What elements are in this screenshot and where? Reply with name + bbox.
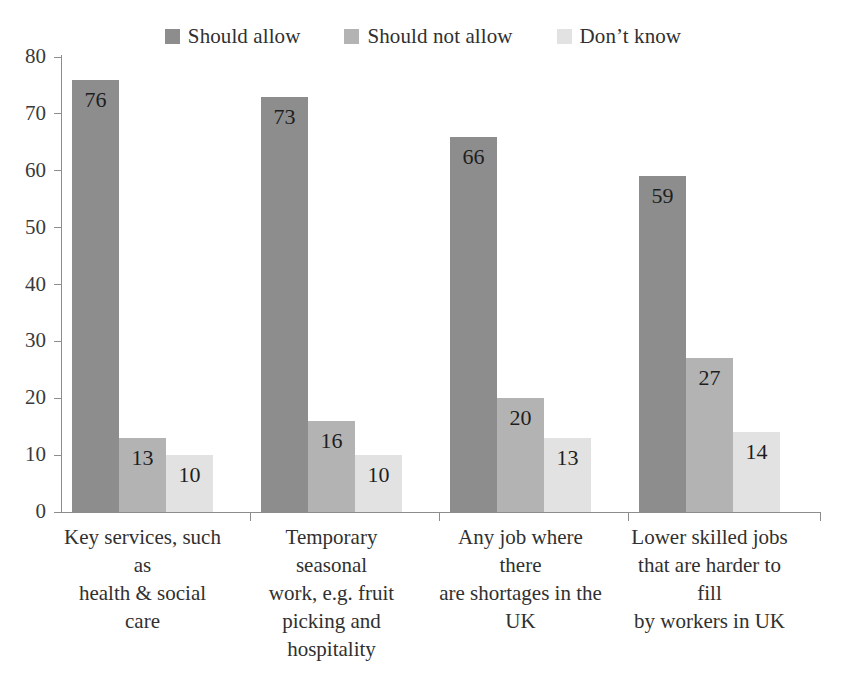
bar[interactable]: 14 (733, 432, 780, 512)
y-axis-tick-label: 20 (0, 387, 46, 408)
category-label: Any job where thereare shortages in theU… (437, 523, 604, 635)
bar-group: 761310 (72, 57, 213, 512)
y-axis-tick-label: 70 (0, 103, 46, 124)
category-separator-tick (439, 512, 440, 521)
plot-area: 761310731610662013592714 (62, 57, 820, 512)
y-axis-tick (54, 170, 62, 171)
bar-group-bars: 761310 (72, 57, 213, 512)
category-label-line: that are harder to fill (626, 551, 793, 607)
y-axis-tick (54, 341, 62, 342)
bar[interactable]: 76 (72, 80, 119, 512)
y-axis-tick (54, 398, 62, 399)
y-axis-tick-label: 80 (0, 46, 46, 67)
category-label-line: Any job where there (437, 523, 604, 579)
y-axis-tick (54, 455, 62, 456)
bar-group: 731610 (261, 57, 402, 512)
category-label-line: picking and (248, 607, 415, 635)
bar-group-bars: 731610 (261, 57, 402, 512)
bar[interactable]: 73 (261, 97, 308, 512)
bar[interactable]: 13 (544, 438, 591, 512)
category-label-line: health & social care (59, 579, 226, 635)
bar-value-label: 10 (368, 464, 390, 486)
bar[interactable]: 27 (686, 358, 733, 512)
bar-value-label: 16 (321, 430, 343, 452)
y-axis-tick (54, 512, 62, 513)
x-axis-end-tick (820, 512, 821, 521)
bar-value-label: 14 (746, 441, 768, 463)
bar-value-label: 59 (652, 185, 674, 207)
bar-chart: 80706050403020100 7613107316106620135927… (0, 0, 846, 686)
bar[interactable]: 20 (497, 398, 544, 512)
category-separator-tick (628, 512, 629, 521)
category-label-line: Temporary seasonal (248, 523, 415, 579)
y-axis-tick-label: 10 (0, 444, 46, 465)
bar-group-bars: 592714 (639, 57, 780, 512)
category-label: Key services, such ashealth & social car… (59, 523, 226, 635)
bar-group: 662013 (450, 57, 591, 512)
bar[interactable]: 66 (450, 137, 497, 512)
y-axis-tick (54, 113, 62, 114)
y-axis-tick (54, 227, 62, 228)
y-axis-tick-label: 40 (0, 274, 46, 295)
category-label-line: are shortages in the (437, 579, 604, 607)
category-label-line: Key services, such as (59, 523, 226, 579)
bar[interactable]: 10 (166, 455, 213, 512)
bar[interactable]: 10 (355, 455, 402, 512)
bar[interactable]: 13 (119, 438, 166, 512)
category-label-line: UK (437, 607, 604, 635)
y-axis-tick-label: 0 (0, 501, 46, 522)
bar-value-label: 27 (699, 367, 721, 389)
bar[interactable]: 16 (308, 421, 355, 512)
category-label-line: work, e.g. fruit (248, 579, 415, 607)
category-label: Lower skilled jobsthat are harder to fil… (626, 523, 793, 635)
category-label-line: hospitality (248, 635, 415, 663)
category-label: Temporary seasonalwork, e.g. fruitpickin… (248, 523, 415, 663)
bar-group-bars: 662013 (450, 57, 591, 512)
bar-value-label: 73 (274, 106, 296, 128)
y-axis-tick-label: 30 (0, 330, 46, 351)
bar-value-label: 20 (510, 407, 532, 429)
category-label-line: by workers in UK (626, 607, 793, 635)
y-axis-tick (54, 57, 62, 58)
category-label-line: Lower skilled jobs (626, 523, 793, 551)
y-axis-tick-label: 60 (0, 160, 46, 181)
bar-value-label: 10 (179, 464, 201, 486)
bar-group: 592714 (639, 57, 780, 512)
y-axis-tick (54, 284, 62, 285)
category-separator-tick (250, 512, 251, 521)
bar-value-label: 76 (85, 89, 107, 111)
y-axis-tick-label: 50 (0, 217, 46, 238)
bar-value-label: 66 (463, 146, 485, 168)
bar[interactable]: 59 (639, 176, 686, 512)
bar-value-label: 13 (132, 447, 154, 469)
bar-value-label: 13 (557, 447, 579, 469)
x-axis-line (61, 512, 821, 513)
